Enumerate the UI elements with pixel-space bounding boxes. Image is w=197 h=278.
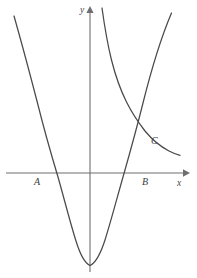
arrow-right-icon — [183, 169, 190, 177]
x-axis-label: x — [177, 179, 181, 189]
point-label-a: A — [34, 177, 40, 187]
figure-canvas — [0, 0, 197, 278]
parabola-curve — [14, 13, 172, 266]
math-figure: A B C x y — [0, 0, 197, 278]
y-axis-label: y — [80, 6, 84, 16]
hyperbola-curve — [102, 8, 180, 155]
point-label-c: C — [151, 136, 158, 146]
point-label-b: B — [142, 177, 148, 187]
arrow-up-icon — [86, 6, 93, 13]
